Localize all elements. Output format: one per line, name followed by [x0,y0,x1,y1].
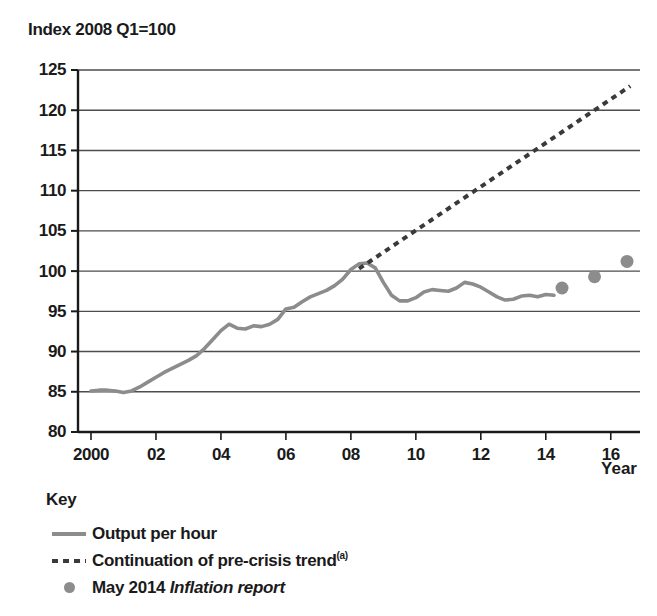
series-line-pre-crisis-trend [359,86,630,269]
legend-item-label-plain: May 2014 [92,578,170,597]
y-axis-tick-label: 115 [40,141,66,160]
data-point-dot [621,255,634,268]
legend-item-label-text: Continuation of pre-crisis trend [92,551,336,570]
dashed-line-swatch-icon [46,559,92,563]
series-line-output-per-hour [91,263,554,393]
x-axis-tick-label: 12 [472,445,490,464]
x-axis-tick-label: 14 [537,445,556,464]
legend-item-label: May 2014 Inflation report [92,578,285,598]
solid-line-swatch-icon [46,532,92,536]
y-axis-tick-label: 100 [39,262,66,281]
y-axis-ticks: 12512011511010510095908580 [39,60,78,441]
gridlines [78,70,640,392]
y-axis-tick-label: 125 [39,60,66,79]
x-axis-tick-label: 02 [147,445,165,464]
x-axis-tick-label: 08 [342,445,360,464]
legend-item-pre-crisis-trend: Continuation of pre-crisis trend(a) [46,547,646,574]
x-axis-tick-label: 2000 [73,445,109,464]
series-dots-may-2014-inflation-report [556,255,634,295]
legend-item-footnote: (a) [336,550,347,561]
y-axis-tick-label: 80 [48,422,66,441]
y-axis-tick-label: 105 [39,221,66,240]
legend-item-output-per-hour: Output per hour [46,520,646,547]
y-axis-tick-label: 120 [39,101,66,120]
data-point-dot [556,282,569,295]
y-axis-tick-label: 95 [48,302,66,321]
legend-item-may-2014-inflation-report: May 2014 Inflation report [46,574,646,601]
y-axis-tick-label: 90 [48,342,66,361]
y-axis-tick-label: 85 [48,382,66,401]
dot-swatch-icon [46,582,92,593]
productivity-chart: Index 2008 Q1=100 1251201151101051009590… [0,0,657,616]
chart-legend: Key Output per hour Continuation of pre-… [46,490,646,601]
y-axis-tick-label: 110 [40,181,66,200]
legend-item-label-italic: Inflation report [170,578,285,597]
x-axis-tick-label: 10 [407,445,425,464]
x-axis-tick-label: 06 [277,445,295,464]
x-axis-ticks: 20000204060810121416 [73,432,620,464]
data-point-dot [588,270,601,283]
x-axis-title: Year [601,459,637,478]
legend-item-label: Output per hour [92,524,217,544]
x-axis-tick-label: 04 [212,445,231,464]
legend-item-label: Continuation of pre-crisis trend(a) [92,550,348,571]
legend-title: Key [46,490,646,510]
